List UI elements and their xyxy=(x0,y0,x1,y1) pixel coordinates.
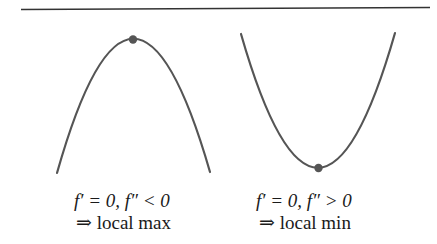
concave-down-curve xyxy=(57,39,210,173)
local-max-point xyxy=(129,35,137,43)
local-min-conclusion: ⇒ local min xyxy=(256,212,352,234)
local-max-caption: f′ = 0, f″ < 0 ⇒ local max xyxy=(74,190,171,234)
local-min-panel xyxy=(241,33,395,172)
local-min-caption: f′ = 0, f″ > 0 ⇒ local min xyxy=(256,190,352,234)
local-max-condition: f′ = 0, f″ < 0 xyxy=(74,190,171,212)
concave-up-curve xyxy=(241,33,395,168)
local-min-condition: f′ = 0, f″ > 0 xyxy=(256,190,352,212)
local-max-conclusion: ⇒ local max xyxy=(74,212,171,234)
second-derivative-test-diagram xyxy=(0,0,437,244)
local-min-point xyxy=(314,164,322,172)
local-max-panel xyxy=(57,35,210,173)
top-rule xyxy=(21,8,430,10)
